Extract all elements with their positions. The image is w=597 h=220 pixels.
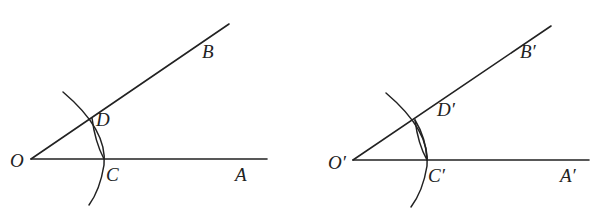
figure-original-angle: O B D C A [10,24,267,205]
label-d: D [95,109,110,130]
label-c: C [106,164,119,185]
label-b: B [202,41,214,62]
label-o-prime: O′ [328,152,347,173]
label-b-prime: B′ [520,41,537,62]
angle-construction-diagram: O B D C A O′ B′ D′ C′ A′ [0,0,597,220]
label-a: A [233,164,247,185]
arc-centered-o-prime [386,93,427,207]
label-c-prime: C′ [428,165,446,186]
figure-copied-angle: O′ B′ D′ C′ A′ [328,26,589,207]
label-d-prime: D′ [436,99,456,120]
label-a-prime: A′ [558,165,577,186]
label-o: O [10,150,24,171]
ray-ob [31,24,229,159]
